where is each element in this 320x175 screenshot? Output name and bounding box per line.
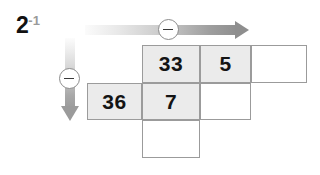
grid-cell-r1c4[interactable] (251, 45, 307, 83)
horizontal-arrow-head (235, 21, 249, 39)
grid-cell-r2c2[interactable]: 7 (142, 83, 200, 120)
grid-cell-r1c2[interactable]: 33 (142, 45, 200, 83)
power-label: 2-1 (16, 14, 40, 37)
grid-cell-r3c2[interactable] (142, 120, 200, 158)
grid-cell-r1c3[interactable]: 5 (200, 45, 251, 83)
power-base: 2 (16, 12, 28, 38)
power-exponent: -1 (28, 13, 40, 28)
vertical-arrow-head (61, 106, 79, 121)
grid-cell-r2c3[interactable] (200, 83, 251, 120)
grid-cell-r2c1[interactable]: 36 (87, 83, 142, 120)
minus-circle-icon-horizontal (158, 19, 179, 40)
minus-circle-icon-vertical (59, 68, 80, 89)
puzzle-canvas: 2-1 33 5 36 7 (0, 0, 320, 175)
